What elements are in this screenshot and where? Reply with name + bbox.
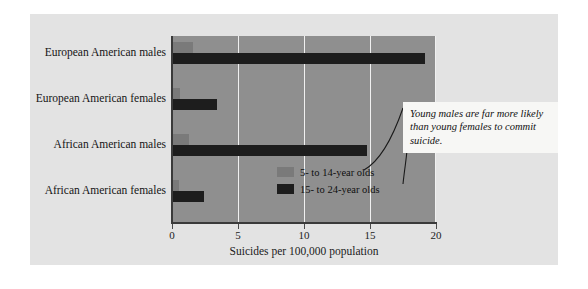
bar-european-american-males-15-24 [172,53,425,64]
bar-european-american-males-5-14 [172,42,193,53]
x-axis-title: Suicides per 100,000 population [172,245,436,257]
legend-item-15-24: 15- to 24-year olds [277,182,380,196]
legend-item-5-14: 5- to 14-year olds [277,165,380,179]
legend-swatch-5-14 [277,167,294,177]
x-tick-label-5: 5 [235,229,241,241]
bar-european-american-females-5-14 [172,88,180,99]
x-tick-label-20: 20 [431,229,442,241]
legend-label-5-14: 5- to 14-year olds [300,167,374,178]
legend: 5- to 14-year olds 15- to 24-year olds [277,165,380,199]
bar-african-american-males-15-24 [172,145,367,156]
x-tick-label-0: 0 [169,229,175,241]
legend-swatch-15-24 [277,184,294,194]
legend-label-15-24: 15- to 24-year olds [300,184,380,195]
annotation-callout: Young males are far more likely than you… [403,102,558,153]
x-tick-label-10: 10 [299,229,310,241]
category-label-african-american-females: African American females [45,184,166,196]
bar-african-american-females-15-24 [172,191,204,202]
category-label-european-american-males: European American males [45,46,166,58]
category-label-european-american-females: European American females [36,92,166,104]
category-label-african-american-males: African American males [54,138,166,150]
x-tick-label-15: 15 [365,229,376,241]
bar-african-american-females-5-14 [172,180,179,191]
chart-panel: 0 5 10 15 20 Suicides per 100,000 popula… [30,14,558,265]
bar-african-american-males-5-14 [172,134,189,145]
y-axis-line [171,36,173,224]
bar-european-american-females-15-24 [172,99,217,110]
